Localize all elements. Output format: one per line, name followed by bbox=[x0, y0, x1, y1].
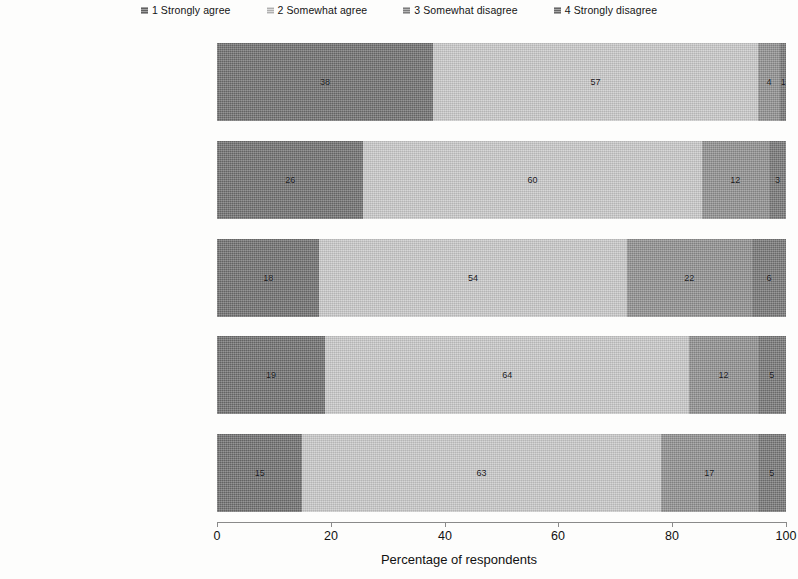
bar-segment-value: 38 bbox=[320, 77, 330, 87]
bar-segment-value: 15 bbox=[255, 468, 265, 478]
x-tick-label-80: 80 bbox=[665, 529, 679, 543]
bar-segment: 18 bbox=[217, 239, 319, 317]
bar-segment-value: 63 bbox=[477, 468, 487, 478]
legend-label-3: 3 Somewhat disagree bbox=[414, 4, 517, 16]
bar-segment: 12 bbox=[702, 141, 770, 219]
legend-swatch-icon-2 bbox=[267, 7, 274, 14]
bar-row-4: 1964125 bbox=[217, 336, 786, 414]
bar-segment-value: 17 bbox=[704, 468, 714, 478]
legend-label-4: 4 Strongly disagree bbox=[565, 4, 657, 16]
bar-segment: 5 bbox=[758, 336, 786, 414]
x-tick-20 bbox=[331, 522, 332, 527]
bar-segment: 1 bbox=[780, 43, 786, 121]
bar-row-1: 385741 bbox=[217, 43, 786, 121]
x-tick-100 bbox=[786, 522, 787, 527]
bar-segment: 64 bbox=[325, 336, 689, 414]
bar-segment: 5 bbox=[758, 434, 786, 512]
bar-segment: 6 bbox=[752, 239, 786, 317]
legend-item-3: 3 Somewhat disagree bbox=[403, 4, 517, 16]
x-tick-label-0: 0 bbox=[214, 529, 221, 543]
bar-segment: 54 bbox=[319, 239, 626, 317]
bar-segment-value: 1 bbox=[781, 77, 786, 87]
bar-segment-value: 60 bbox=[527, 175, 537, 185]
legend-item-1: 1 Strongly agree bbox=[141, 4, 231, 16]
bar-segment-value: 5 bbox=[769, 468, 774, 478]
bar-segment: 15 bbox=[217, 434, 302, 512]
bar-segment: 3 bbox=[769, 141, 786, 219]
chart-legend: 1 Strongly agree2 Somewhat agree3 Somewh… bbox=[0, 4, 798, 16]
legend-item-4: 4 Strongly disagree bbox=[554, 4, 657, 16]
bar-segment-value: 4 bbox=[766, 77, 771, 87]
bar-segment-value: 5 bbox=[769, 370, 774, 380]
bar-segment: 63 bbox=[302, 434, 660, 512]
bar-segment-value: 64 bbox=[502, 370, 512, 380]
legend-label-2: 2 Somewhat agree bbox=[278, 4, 368, 16]
bar-segment-value: 6 bbox=[766, 273, 771, 283]
plot-area: 385741You should obey the directivesof t… bbox=[217, 33, 786, 522]
bar-row-5: 1563175 bbox=[217, 434, 786, 512]
x-tick-label-40: 40 bbox=[438, 529, 452, 543]
x-tick-0 bbox=[217, 522, 218, 527]
bar-row-3: 1854226 bbox=[217, 239, 786, 317]
bar-segment-value: 22 bbox=[684, 273, 694, 283]
x-axis-title-text: Percentage of respondents bbox=[261, 552, 537, 567]
legend-label-1: 1 Strongly agree bbox=[152, 4, 231, 16]
legend-swatch-icon-4 bbox=[554, 7, 561, 14]
x-tick-label-100: 100 bbox=[776, 529, 797, 543]
legend-swatch-icon-1 bbox=[141, 7, 148, 14]
bar-segment-value: 19 bbox=[266, 370, 276, 380]
x-axis-title: Percentage of respondents bbox=[0, 552, 798, 567]
bar-segment: 19 bbox=[217, 336, 325, 414]
bar-segment-value: 26 bbox=[285, 175, 295, 185]
bar-segment: 17 bbox=[661, 434, 758, 512]
bar-row-2: 2660123 bbox=[217, 141, 786, 219]
bar-segment-value: 12 bbox=[718, 370, 728, 380]
bar-segment: 12 bbox=[689, 336, 757, 414]
bar-segment: 26 bbox=[217, 141, 363, 219]
bar-segment-value: 3 bbox=[775, 175, 780, 185]
bar-segment-value: 12 bbox=[730, 175, 740, 185]
bar-segment: 4 bbox=[758, 43, 781, 121]
x-tick-40 bbox=[445, 522, 446, 527]
x-tick-60 bbox=[558, 522, 559, 527]
x-tick-label-20: 20 bbox=[324, 529, 338, 543]
bar-segment: 38 bbox=[217, 43, 433, 121]
bar-segment-value: 57 bbox=[590, 77, 600, 87]
x-tick-80 bbox=[672, 522, 673, 527]
legend-swatch-icon-3 bbox=[403, 7, 410, 14]
x-tick-label-60: 60 bbox=[551, 529, 565, 543]
bar-segment: 60 bbox=[363, 141, 701, 219]
x-axis-line bbox=[217, 522, 787, 523]
bar-segment: 57 bbox=[433, 43, 757, 121]
bar-segment: 22 bbox=[627, 239, 752, 317]
bar-segment-value: 54 bbox=[468, 273, 478, 283]
legend-item-2: 2 Somewhat agree bbox=[267, 4, 368, 16]
bar-segment-value: 18 bbox=[263, 273, 273, 283]
